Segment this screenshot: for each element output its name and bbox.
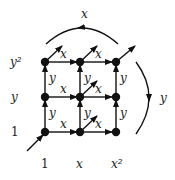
svg-text:x: x bbox=[95, 47, 102, 61]
svg-text:x: x bbox=[76, 157, 83, 171]
svg-text:x: x bbox=[60, 47, 67, 61]
right-arc bbox=[136, 62, 149, 134]
right-arc-label: y bbox=[159, 91, 167, 105]
svg-text:x: x bbox=[60, 82, 67, 96]
svg-text:x: x bbox=[95, 117, 102, 131]
svg-text:y: y bbox=[119, 71, 127, 85]
svg-text:y: y bbox=[83, 106, 91, 120]
svg-text:x: x bbox=[60, 117, 67, 131]
svg-text:y: y bbox=[48, 71, 56, 85]
row-labels: y² y 1 bbox=[9, 55, 22, 139]
svg-text:1: 1 bbox=[11, 125, 19, 139]
top-arc bbox=[46, 28, 118, 44]
svg-text:x: x bbox=[95, 82, 102, 96]
svg-text:y: y bbox=[48, 106, 56, 120]
edge-labels: x x x x x x y y y y y y x y bbox=[48, 7, 167, 131]
svg-text:y: y bbox=[119, 106, 127, 120]
column-labels: 1 x x² bbox=[41, 157, 123, 171]
svg-text:y: y bbox=[10, 90, 18, 104]
top-arc-label: x bbox=[81, 7, 88, 21]
svg-text:1: 1 bbox=[41, 157, 49, 171]
svg-text:x²: x² bbox=[111, 157, 123, 171]
quiver-diagram: x x x x x x y y y y y y x y y² y 1 1 x x… bbox=[0, 0, 175, 180]
svg-text:y: y bbox=[83, 71, 91, 85]
svg-text:y²: y² bbox=[9, 55, 22, 69]
